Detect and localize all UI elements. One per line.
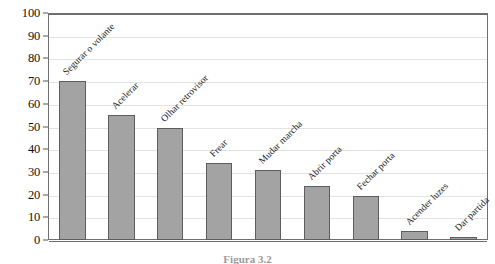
- bar: [108, 115, 134, 240]
- bar: [353, 196, 379, 240]
- y-axis-tick-label: 50: [28, 120, 40, 133]
- bar-category-label: Frear: [208, 137, 230, 159]
- y-axis: 0102030405060708090100: [0, 0, 48, 264]
- bar-group: Mudar marcha: [244, 13, 293, 240]
- bar-group: Olhar retrovisor: [146, 13, 195, 240]
- bar-group: Acender luzes: [390, 13, 439, 240]
- bar: [304, 186, 330, 240]
- y-axis-tick-label: 20: [28, 188, 40, 201]
- bar-group: Dar partida: [439, 13, 488, 240]
- y-axis-tick-label: 10: [28, 211, 40, 224]
- bar-group: Acelerar: [97, 13, 146, 240]
- y-axis-tick-label: 80: [28, 52, 40, 65]
- y-axis-tick-label: 60: [28, 98, 40, 111]
- bar: [206, 163, 232, 240]
- y-axis-tick-label: 40: [28, 143, 40, 156]
- y-axis-tick-label: 90: [28, 29, 40, 42]
- bar-group: Frear: [195, 13, 244, 240]
- bar-group: Fechar porta: [341, 13, 390, 240]
- bar-group: Segurar o volante: [48, 13, 97, 240]
- bar: [401, 231, 427, 240]
- y-axis-tick-label: 100: [22, 7, 40, 20]
- y-axis-tick-label: 70: [28, 75, 40, 88]
- bar: [450, 237, 476, 240]
- gridline: [49, 241, 487, 242]
- bar: [255, 170, 281, 240]
- figure-caption: Figura 3.2: [0, 252, 495, 264]
- bar-category-label: Dar partida: [453, 194, 491, 232]
- y-axis-tick-label: 30: [28, 166, 40, 179]
- y-axis-tick-label: 0: [34, 234, 40, 247]
- bar-category-label: Abrir porta: [306, 144, 344, 182]
- bar-group: Abrir porta: [292, 13, 341, 240]
- bar: [157, 128, 183, 240]
- bars-layer: Segurar o volanteAcelerarOlhar retroviso…: [48, 13, 488, 240]
- bar: [59, 81, 85, 240]
- bar-category-label: Acelerar: [110, 80, 141, 111]
- figure-container: 0102030405060708090100 Segurar o volante…: [0, 0, 495, 264]
